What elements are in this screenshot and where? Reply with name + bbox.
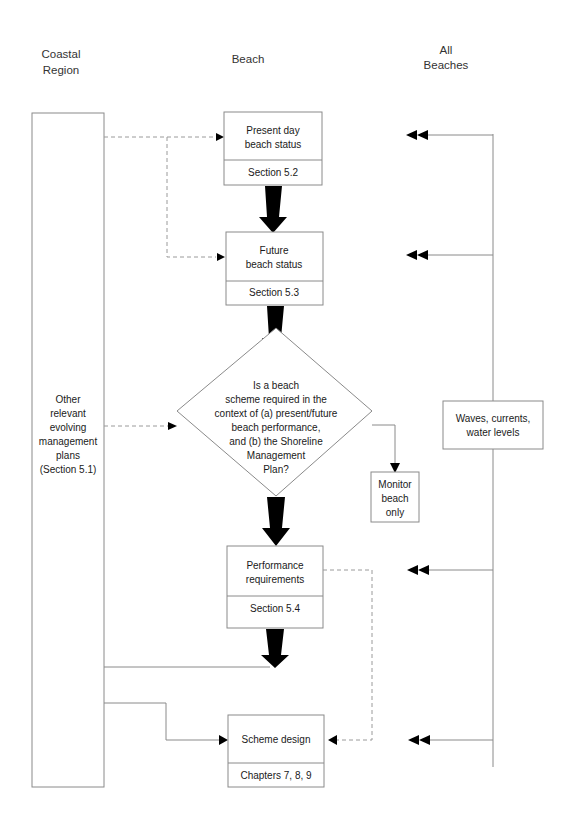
flow-arrow-icon	[261, 629, 289, 668]
header-coastal-line: Coastal	[42, 48, 81, 60]
header-coastal-region: Coastal Region	[42, 48, 81, 76]
decision-text: Plan?	[263, 464, 289, 475]
connector	[104, 703, 219, 740]
decision-text: Is a beach	[253, 380, 299, 391]
coastal-box-text: Other	[55, 394, 81, 405]
box-text: beach status	[246, 259, 303, 270]
coastal-box-text: (Section 5.1)	[40, 464, 97, 475]
coastal-region-box: Other relevant evolving management plans…	[32, 113, 104, 787]
double-arrow-icon	[407, 565, 418, 575]
arrowhead-icon	[216, 133, 224, 141]
double-arrow-icon	[406, 130, 417, 140]
coastal-box-text: plans	[56, 450, 80, 461]
feed-present-day	[406, 130, 493, 140]
coastal-box-text: evolving	[50, 422, 87, 433]
arrowhead-icon	[168, 422, 177, 430]
box-text: water levels	[466, 427, 520, 438]
box-text: Scheme design	[242, 734, 311, 745]
performance-requirements-box: Performance requirements Section 5.4	[227, 546, 323, 628]
box-text: beach status	[245, 139, 302, 150]
decision-text: and (b) the Shoreline	[229, 436, 323, 447]
connector	[372, 425, 395, 463]
box-text: Waves, currents,	[456, 413, 531, 424]
box-text: Monitor	[378, 479, 412, 490]
box-text: Performance	[246, 560, 304, 571]
present-day-status-box: Present day beach status Section 5.2	[224, 112, 322, 185]
box-text: Future	[260, 245, 289, 256]
scheme-design-box: Scheme design Chapters 7, 8, 9	[228, 715, 324, 787]
waves-currents-box: Waves, currents, water levels	[443, 401, 543, 449]
double-arrow-icon	[408, 735, 419, 745]
section-ref: Section 5.2	[248, 167, 298, 178]
header-coastal-line: Region	[43, 64, 79, 76]
flow-arrow-icon	[259, 186, 287, 233]
arrowhead-icon	[328, 735, 337, 745]
section-ref: Chapters 7, 8, 9	[240, 770, 312, 781]
header-beach: Beach	[232, 53, 265, 65]
double-arrow-icon	[406, 250, 417, 260]
section-ref: Section 5.4	[250, 603, 300, 614]
arrowhead-icon	[217, 253, 225, 261]
feed-future	[406, 250, 493, 260]
dashed-connector	[167, 137, 216, 257]
decision-text: beach performance,	[232, 422, 321, 433]
coastal-box-text: relevant	[50, 408, 86, 419]
box-text: requirements	[246, 574, 304, 585]
arrowhead-icon	[219, 735, 228, 745]
decision-text: Management	[247, 450, 306, 461]
dashed-connector	[323, 570, 372, 740]
box-text: Present day	[246, 125, 299, 136]
box-text: only	[386, 507, 404, 518]
box-text: beach	[381, 493, 408, 504]
coastal-box-text: management	[39, 436, 98, 447]
feed-performance	[407, 565, 493, 575]
decision-text: context of (a) present/future	[215, 408, 338, 419]
flow-arrow-icon	[262, 497, 290, 546]
flowchart: Coastal Region Beach All Beaches Other r…	[0, 0, 574, 835]
future-status-box: Future beach status Section 5.3	[226, 232, 323, 305]
header-all-beaches: All Beaches	[424, 44, 469, 71]
monitor-beach-box: Monitor beach only	[371, 472, 419, 522]
section-ref: Section 5.3	[249, 287, 299, 298]
header-all-line: All	[440, 44, 453, 56]
feed-scheme-design	[408, 735, 493, 745]
header-all-line: Beaches	[424, 59, 469, 71]
decision-text: scheme required in the	[225, 394, 327, 405]
decision-diamond: Is a beach scheme required in the contex…	[177, 328, 372, 496]
